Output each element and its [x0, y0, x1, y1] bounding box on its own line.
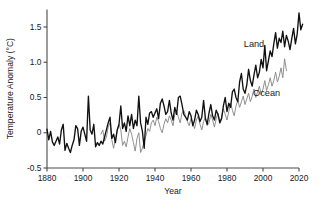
x-axis-ticks: 18801900192019401960198020002020 — [38, 168, 309, 183]
svg-text:1920: 1920 — [110, 173, 129, 183]
svg-text:0.5: 0.5 — [30, 92, 42, 102]
svg-text:1980: 1980 — [218, 173, 237, 183]
x-axis-title: Year — [164, 186, 182, 196]
annotation-land: Land — [244, 39, 264, 49]
y-axis-title: Temperature Anomaly (°C) — [5, 38, 15, 139]
svg-text:2020: 2020 — [290, 173, 309, 183]
series-annotations: LandOcean — [244, 39, 280, 98]
chart-canvas: -0.500.51.01.5 1880190019201940196019802… — [0, 0, 335, 206]
svg-text:1.0: 1.0 — [30, 57, 42, 67]
svg-text:-0.5: -0.5 — [27, 163, 42, 173]
svg-text:1960: 1960 — [182, 173, 201, 183]
svg-text:2000: 2000 — [254, 173, 273, 183]
y-axis-ticks: -0.500.51.01.5 — [27, 22, 47, 173]
svg-text:1.5: 1.5 — [30, 22, 42, 32]
svg-text:1900: 1900 — [74, 173, 93, 183]
svg-text:1880: 1880 — [38, 173, 57, 183]
annotation-ocean: Ocean — [253, 88, 280, 98]
svg-text:0: 0 — [37, 127, 42, 137]
svg-text:1940: 1940 — [146, 173, 165, 183]
temperature-anomaly-chart: -0.500.51.01.5 1880190019201940196019802… — [0, 0, 335, 206]
